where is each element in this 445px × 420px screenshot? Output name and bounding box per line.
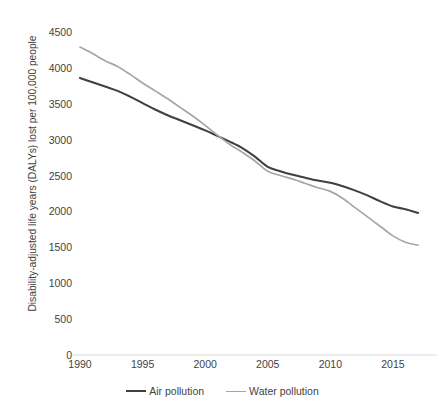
x-axis-tick-label: 2000 <box>193 358 216 370</box>
legend-label: Air pollution <box>149 386 204 397</box>
legend-line-swatch-icon <box>226 391 246 392</box>
line-chart: Disability-adjusted life years (DALYs) l… <box>0 0 445 420</box>
legend-item[interactable]: Water pollution <box>226 386 319 397</box>
data-series-group <box>80 47 418 245</box>
legend-item[interactable]: Air pollution <box>126 386 204 397</box>
x-axis-tick-label: 2005 <box>256 358 279 370</box>
chart-legend: Air pollutionWater pollution <box>0 386 445 397</box>
plot-area <box>0 0 445 420</box>
series-line <box>80 47 418 245</box>
x-axis-tick-label: 1990 <box>68 358 91 370</box>
x-axis-tick-label: 2010 <box>319 358 342 370</box>
legend-line-swatch-icon <box>126 390 146 392</box>
x-axis-tick-label: 2015 <box>381 358 404 370</box>
x-axis-tick-label: 1995 <box>131 358 154 370</box>
series-line <box>80 78 418 213</box>
legend-label: Water pollution <box>249 386 319 397</box>
